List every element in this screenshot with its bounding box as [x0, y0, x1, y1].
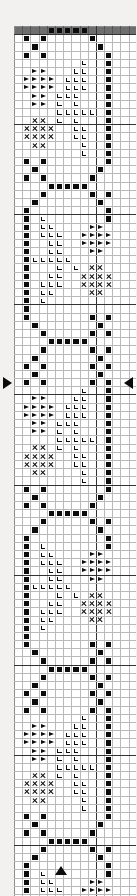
chart-row [15, 125, 137, 133]
chart-cell [129, 510, 136, 518]
chart-row [15, 600, 137, 608]
chart-cell [88, 92, 96, 100]
chart-cell [88, 837, 96, 845]
chart-cell [105, 35, 113, 43]
chart-cell [96, 485, 104, 493]
chart-cell [96, 567, 104, 575]
chart-cell [64, 878, 72, 886]
chart-cell [64, 813, 72, 821]
chart-cell [55, 510, 63, 518]
chart-cell [113, 886, 121, 894]
chart-cell [129, 706, 136, 714]
chart-cell [121, 853, 129, 861]
chart-cell [80, 346, 88, 354]
chart-cell [64, 297, 72, 305]
chart-cell [47, 878, 55, 886]
chart-cell [129, 207, 136, 215]
chart-row [15, 329, 137, 337]
chart-cell [23, 485, 31, 493]
symbol-tri-icon [32, 413, 37, 417]
chart-cell [31, 501, 39, 509]
chart-cell [31, 780, 39, 788]
symbol-tri-icon [24, 405, 29, 409]
chart-cell [80, 763, 88, 771]
chart-cell [47, 673, 55, 681]
chart-cell [31, 665, 39, 673]
symbol-cor-icon [74, 78, 78, 82]
chart-cell [96, 403, 104, 411]
symbol-tri-icon [24, 413, 29, 417]
chart-cell [31, 272, 39, 280]
chart-row [15, 403, 137, 411]
chart-cell [80, 125, 88, 133]
chart-cell [72, 403, 80, 411]
symbol-cor-icon [82, 454, 86, 458]
symbol-sq-icon [24, 208, 29, 213]
chart-cell [23, 370, 31, 378]
chart-cell [15, 878, 23, 886]
chart-cell [129, 280, 136, 288]
chart-cell [39, 821, 47, 829]
chart-cell [55, 190, 63, 198]
chart-cell [129, 829, 136, 837]
symbol-x-icon [89, 281, 96, 288]
symbol-cor-icon [74, 266, 78, 270]
symbol-x-icon [97, 592, 104, 599]
chart-cell [121, 329, 129, 337]
chart-cell [105, 403, 113, 411]
chart-cell [80, 182, 88, 190]
symbol-tri-icon [24, 85, 29, 89]
chart-cell [55, 665, 63, 673]
symbol-sq-icon [106, 126, 111, 131]
chart-cell [23, 731, 31, 739]
symbol-x-icon [97, 617, 104, 624]
chart-row [15, 452, 137, 460]
symbol-tri-icon [49, 405, 54, 409]
chart-cell [105, 289, 113, 297]
chart-cell [105, 166, 113, 174]
symbol-tri-icon [106, 560, 111, 564]
symbol-sq-icon [98, 356, 103, 361]
chart-cell [55, 231, 63, 239]
symbol-sq-icon [106, 536, 111, 541]
chart-cell [23, 92, 31, 100]
symbol-sq-icon [24, 568, 29, 573]
chart-cell [64, 92, 72, 100]
chart-cell [129, 714, 136, 722]
chart-cell [47, 591, 55, 599]
symbol-sq-icon [106, 847, 111, 852]
chart-cell [15, 133, 23, 141]
chart-cell [23, 862, 31, 870]
chart-cell [23, 125, 31, 133]
symbol-cor-icon [57, 774, 61, 778]
chart-cell [39, 239, 47, 247]
chart-cell [39, 829, 47, 837]
chart-row [15, 198, 137, 206]
chart-cell [15, 583, 23, 591]
symbol-tri-icon [90, 249, 95, 253]
chart-cell [64, 575, 72, 583]
chart-cell [39, 436, 47, 444]
chart-cell [47, 706, 55, 714]
chart-cell [121, 100, 129, 108]
chart-cell [39, 117, 47, 125]
symbol-sq-icon [90, 331, 95, 336]
chart-cell [47, 796, 55, 804]
chart-cell [88, 100, 96, 108]
symbol-cor-icon [82, 405, 86, 409]
chart-cell [113, 264, 121, 272]
symbol-tri-icon [41, 77, 46, 81]
chart-cell [55, 51, 63, 59]
chart-cell [88, 338, 96, 346]
chart-cell [80, 387, 88, 395]
chart-cell [129, 460, 136, 468]
chart-cell [121, 452, 129, 460]
chart-cell [23, 387, 31, 395]
symbol-cor-icon [49, 561, 53, 565]
symbol-sq-icon [24, 552, 29, 557]
chart-row [15, 780, 137, 788]
symbol-tri-icon [32, 732, 37, 736]
chart-cell [80, 853, 88, 861]
chart-cell [96, 583, 104, 591]
chart-cell [80, 813, 88, 821]
